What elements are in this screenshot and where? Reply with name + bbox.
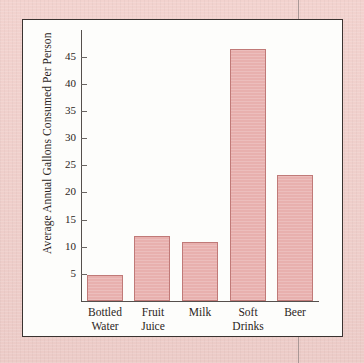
y-axis-tick	[81, 220, 87, 221]
y-axis-tick	[81, 57, 87, 58]
bar-bottled-water	[87, 275, 123, 301]
y-axis-tick	[81, 84, 87, 85]
bar-soft-drinks	[230, 49, 266, 301]
y-axis-tick-label: 15	[46, 214, 76, 225]
bar-beer	[277, 175, 313, 301]
x-axis-category-label: FruitJuice	[129, 306, 177, 333]
x-axis-category-label-line: Fruit	[129, 306, 177, 320]
x-axis-category-label-line: Beer	[271, 306, 319, 320]
y-axis-tick	[81, 192, 87, 193]
y-axis-tick	[81, 111, 87, 112]
x-axis-line	[81, 301, 319, 302]
bar-fruit-juice	[134, 236, 170, 301]
y-axis-tick-label: 30	[46, 132, 76, 143]
y-axis-tick	[81, 247, 87, 248]
y-axis-tick	[81, 165, 87, 166]
y-axis-line	[81, 30, 82, 302]
x-axis-category-label-line: Soft	[224, 306, 272, 320]
x-axis-category-label-line: Bottled	[81, 306, 129, 320]
x-axis-category-label-line: Drinks	[224, 320, 272, 334]
x-axis-category-label-line: Milk	[176, 306, 224, 320]
x-axis-category-label: Milk	[176, 306, 224, 320]
x-axis-category-label: SoftDrinks	[224, 306, 272, 333]
y-axis-tick-label: 35	[46, 105, 76, 116]
figure-frame: Average Annual Gallons Consumed Per Pers…	[22, 19, 343, 337]
y-axis-tick-label: 40	[46, 78, 76, 89]
x-axis-category-label: BottledWater	[81, 306, 129, 333]
x-axis-category-label-line: Water	[81, 320, 129, 334]
y-axis-tick-label: 10	[46, 241, 76, 252]
x-axis-category-label-line: Juice	[129, 320, 177, 334]
y-axis-tick-label: 25	[46, 159, 76, 170]
y-axis-tick-label: 5	[46, 268, 76, 279]
chart-page: Average Annual Gallons Consumed Per Pers…	[0, 0, 364, 363]
x-axis-category-label: Beer	[271, 306, 319, 320]
y-axis-tick	[81, 138, 87, 139]
bar-milk	[182, 242, 218, 301]
y-axis-tick-label: 45	[46, 51, 76, 62]
bar-chart-plot: Average Annual Gallons Consumed Per Pers…	[23, 20, 344, 338]
y-axis-tick-label: 20	[46, 186, 76, 197]
